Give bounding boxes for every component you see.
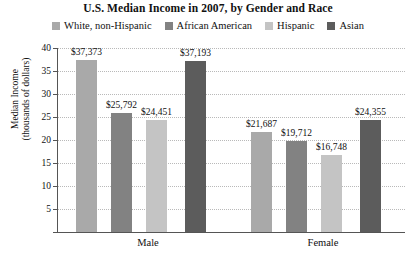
- y-axis-label: 40: [42, 43, 52, 53]
- bar-value-label: $19,712: [281, 128, 312, 139]
- bar: $19,712: [286, 141, 307, 232]
- legend-swatch-icon: [165, 22, 173, 30]
- y-axis-tick: [53, 48, 57, 49]
- legend-item: African American: [165, 20, 253, 32]
- y-axis-label: 15: [42, 158, 52, 168]
- bar: $16,748: [321, 155, 342, 232]
- y-axis-label: 10: [42, 181, 52, 191]
- legend-label: Asian: [339, 20, 364, 32]
- y-axis-label: 30: [42, 89, 52, 99]
- y-axis-label: 5: [46, 204, 51, 214]
- y-axis-tick: [53, 94, 57, 95]
- chart-container: U.S. Median Income in 2007, by Gender an…: [0, 0, 416, 260]
- legend-label: African American: [177, 20, 253, 32]
- legend-label: Hispanic: [277, 20, 314, 32]
- y-axis-label: 25: [42, 112, 52, 122]
- y-axis-title: Median Income (thousands of dollars): [10, 37, 32, 161]
- legend-item: White, non-Hispanic: [52, 20, 151, 32]
- bar: $37,373: [76, 60, 97, 232]
- bar: $37,193: [185, 61, 206, 232]
- y-axis-tick: [53, 163, 57, 164]
- legend-swatch-icon: [52, 22, 60, 30]
- y-axis-title-line1: Median Income: [10, 37, 21, 161]
- chart-legend: White, non-HispanicAfrican AmericanHispa…: [0, 20, 416, 32]
- gridline: [58, 48, 405, 49]
- legend-item: Asian: [327, 20, 364, 32]
- x-axis-group-label: Male: [137, 237, 159, 249]
- y-axis-tick: [53, 71, 57, 72]
- gridline: [58, 71, 405, 72]
- bar: $24,355: [360, 120, 381, 232]
- bar: $24,451: [146, 120, 167, 232]
- bar: $21,687: [251, 132, 272, 232]
- legend-item: Hispanic: [265, 20, 314, 32]
- plot-area: 403530252015105$37,373$25,792$24,451$37,…: [57, 48, 405, 232]
- legend-swatch-icon: [265, 22, 273, 30]
- x-axis-group-label: Female: [308, 237, 339, 249]
- legend-label: White, non-Hispanic: [64, 20, 151, 32]
- y-axis-tick: [53, 186, 57, 187]
- y-axis-title-line2: (thousands of dollars): [21, 37, 32, 161]
- y-axis-tick: [53, 117, 57, 118]
- bar-value-label: $25,792: [106, 100, 137, 111]
- legend-swatch-icon: [327, 22, 335, 30]
- y-axis-tick: [53, 140, 57, 141]
- bar-value-label: $37,373: [71, 47, 102, 58]
- gridline: [58, 94, 405, 95]
- y-axis-label: 35: [42, 66, 52, 76]
- x-axis-line: [57, 232, 405, 233]
- bar-value-label: $37,193: [180, 48, 211, 59]
- chart-title: U.S. Median Income in 2007, by Gender an…: [0, 1, 416, 15]
- bar-value-label: $24,355: [355, 107, 386, 118]
- y-axis-tick: [53, 232, 57, 233]
- y-axis-tick: [53, 209, 57, 210]
- bar: $25,792: [111, 113, 132, 232]
- y-axis-label: 20: [42, 135, 52, 145]
- bar-value-label: $21,687: [246, 119, 277, 130]
- bar-value-label: $16,748: [316, 142, 347, 153]
- bar-value-label: $24,451: [141, 107, 172, 118]
